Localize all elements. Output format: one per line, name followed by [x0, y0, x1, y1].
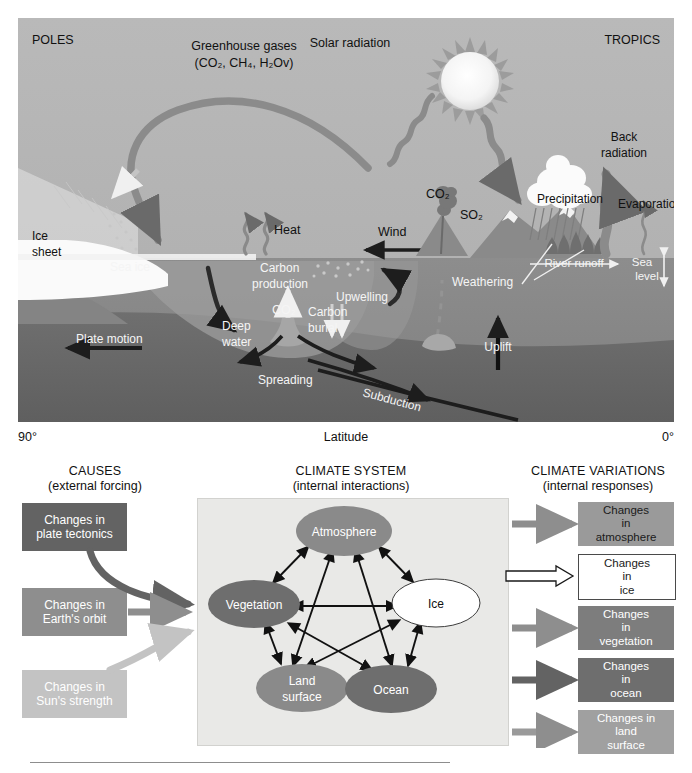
label-carbon-burial-1: Carbon	[308, 305, 347, 319]
label-sea-level-2: level	[635, 270, 659, 282]
link-atmosphere-vegetation	[273, 548, 307, 583]
component-label-atmosphere: Atmosphere	[312, 525, 377, 539]
label-uplift: Uplift	[484, 340, 512, 354]
label-upwelling: Upwelling	[336, 290, 388, 304]
component-land-surface	[256, 664, 348, 712]
footer-divider	[30, 762, 450, 763]
label-sea-ice: Sea ice	[110, 260, 150, 274]
label-so2-volcano: SO₂	[460, 208, 483, 222]
climate-system-diagram: CAUSES (external forcing) CLIMATE SYSTEM…	[0, 458, 692, 748]
cause-arrow-tectonics	[90, 551, 188, 604]
label-ice-sheet-1: Ice	[32, 229, 48, 243]
axis-tick-right: 0°	[662, 430, 674, 444]
variation-arrow-ice	[506, 566, 573, 586]
label-heat: Heat	[274, 223, 301, 237]
component-label-land-surface-2: surface	[282, 690, 322, 704]
label-deep-water-1: Deep	[222, 319, 251, 333]
label-wind: Wind	[378, 225, 407, 239]
label-precipitation: Precipitation	[537, 192, 603, 206]
label-back-radiation-2: radiation	[601, 146, 647, 160]
link-atmosphere-ice	[380, 548, 413, 582]
component-label-ocean: Ocean	[373, 683, 408, 697]
label-solar-radiation: Solar radiation	[310, 36, 391, 50]
cross-section-diagram: POLES TROPICS Greenhouse gases (CO₂, CH₄…	[18, 18, 674, 422]
component-label-ice: Ice	[428, 597, 444, 611]
label-tropics: TROPICS	[604, 33, 660, 47]
axis-title: Latitude	[324, 430, 368, 444]
cause-arrow-sun	[110, 632, 188, 670]
label-ice-sheet-2: sheet	[32, 245, 62, 259]
label-spreading: Spreading	[258, 373, 313, 387]
label-plate-motion: Plate motion	[76, 332, 143, 346]
label-carbon-burial-2: burial	[308, 321, 337, 335]
label-deep-water-2: water	[221, 335, 251, 349]
label-river-runoff: River runoff	[544, 257, 604, 269]
axis-tick-left: 90°	[18, 430, 37, 444]
link-atmosphere-ocean	[356, 552, 392, 666]
label-weathering: Weathering	[452, 275, 513, 289]
label-sea-level-1: Sea	[632, 256, 653, 268]
label-greenhouse-gases: Greenhouse gases	[191, 39, 297, 53]
label-greenhouse-formula: (CO₂, CH₄, H₂Ov)	[195, 56, 294, 70]
latitude-axis: 90° Latitude 0°	[18, 428, 674, 450]
label-poles: POLES	[32, 33, 74, 47]
label-back-radiation-1: Back	[611, 130, 639, 144]
label-co2-ocean: CO₂	[272, 303, 296, 317]
label-carbon-production-1: Carbon	[260, 261, 299, 275]
component-label-vegetation: Vegetation	[226, 598, 283, 612]
label-evaporation: Evaporation	[618, 197, 674, 211]
back-radiation-arrow	[604, 174, 607, 254]
label-carbon-production-2: production	[252, 277, 308, 291]
label-co2-volcano: CO₂	[426, 187, 450, 201]
link-vegetation-ocean	[290, 624, 372, 670]
link-ice-land	[305, 621, 398, 668]
link-ice-ocean	[408, 624, 420, 666]
link-vegetation-land	[266, 624, 281, 664]
component-label-land-surface-1: Land	[289, 674, 316, 688]
